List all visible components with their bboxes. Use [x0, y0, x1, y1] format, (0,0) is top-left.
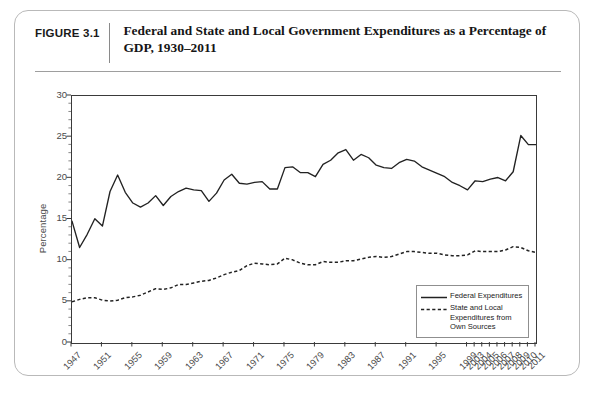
figure-card: FIGURE 3.1 Federal and State and Local G… — [14, 10, 580, 376]
figure-header-divider — [109, 23, 110, 63]
figure-number-label: FIGURE 3.1 — [35, 23, 109, 39]
legend-label-federal: Federal Expenditures — [450, 291, 522, 300]
y-axis-tick-label: 30 — [45, 89, 67, 100]
x-axis-tick-labels: 1947195119551959196319671971197519791983… — [15, 344, 581, 384]
y-axis-tick-label: 25 — [45, 130, 67, 141]
y-axis-tick-label: 15 — [45, 212, 67, 223]
series-line-federal-expenditures — [72, 136, 536, 248]
y-axis-tick-label: 10 — [45, 253, 67, 264]
figure-header-underline — [35, 71, 561, 72]
legend-label-state-local: State and Local Expenditures from Own So… — [450, 303, 523, 331]
y-axis-tick-label: 5 — [45, 294, 67, 305]
figure-title: Federal and State and Local Government E… — [123, 23, 561, 56]
y-axis-tick-label: 20 — [45, 171, 67, 182]
chart-plot-shell: Percentage 051015202530 1947195119551959… — [15, 73, 581, 373]
legend-item-federal: Federal Expenditures — [421, 291, 523, 300]
legend-solid-line-icon — [421, 291, 447, 299]
figure-header: FIGURE 3.1 Federal and State and Local G… — [35, 23, 561, 69]
chart-legend: Federal Expenditures State and Local Exp… — [416, 285, 529, 338]
legend-dashed-line-icon — [421, 303, 447, 311]
y-axis-tick-labels: 051015202530 — [39, 73, 67, 373]
legend-item-state-local: State and Local Expenditures from Own So… — [421, 303, 523, 331]
